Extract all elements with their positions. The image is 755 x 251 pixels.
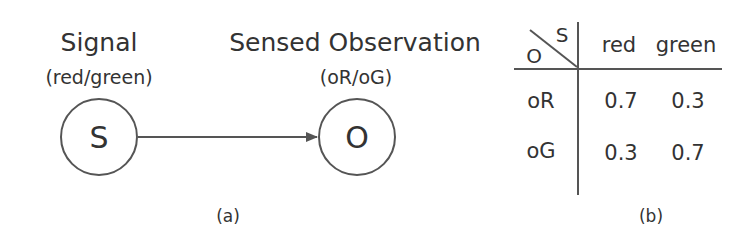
observation-title: Sensed Observation	[229, 30, 481, 55]
node-s-label: S	[89, 123, 108, 153]
cell-og-red: 0.3	[604, 143, 637, 164]
signal-title: Signal	[61, 30, 138, 55]
node-o-label: O	[345, 123, 369, 153]
cell-og-green: 0.7	[671, 143, 704, 164]
corner-column-var: S	[556, 25, 569, 45]
corner-row-var: O	[526, 46, 542, 66]
column-header-red: red	[602, 35, 636, 56]
row-label-og: oG	[526, 141, 555, 162]
signal-subtitle: (red/green)	[45, 68, 152, 87]
caption-b: (b)	[639, 208, 663, 225]
column-header-green: green	[656, 35, 717, 56]
row-label-or: oR	[527, 91, 554, 112]
caption-a: (a)	[216, 208, 240, 225]
observation-subtitle: (oR/oG)	[320, 68, 392, 87]
cell-or-red: 0.7	[604, 91, 637, 112]
cell-or-green: 0.3	[671, 91, 704, 112]
